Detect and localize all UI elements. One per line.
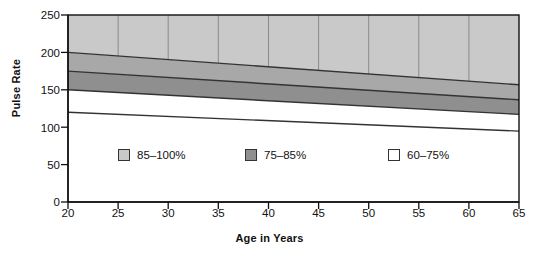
legend-item-60-75: 60–75% bbox=[388, 149, 449, 161]
legend-label-75-85: 75–85% bbox=[264, 149, 306, 161]
x-tick-25: 25 bbox=[98, 208, 138, 220]
y-axis-ticks bbox=[61, 15, 68, 202]
x-tick-30: 30 bbox=[148, 208, 188, 220]
legend-item-85-100: 85–100% bbox=[118, 149, 186, 161]
legend-label-85-100: 85–100% bbox=[137, 149, 186, 161]
x-tick-20: 20 bbox=[48, 208, 88, 220]
x-tick-40: 40 bbox=[249, 208, 289, 220]
x-tick-35: 35 bbox=[198, 208, 238, 220]
plot-area bbox=[0, 0, 539, 259]
x-tick-60: 60 bbox=[449, 208, 489, 220]
x-tick-45: 45 bbox=[299, 208, 339, 220]
pulse-rate-target-zone-chart: Pulse Rate 250 200 150 100 50 0 bbox=[0, 0, 539, 259]
x-axis-title: Age in Years bbox=[0, 232, 539, 244]
x-tick-55: 55 bbox=[399, 208, 439, 220]
legend-label-60-75: 60–75% bbox=[407, 149, 449, 161]
legend-swatch-75-85-icon bbox=[245, 149, 257, 161]
legend-item-75-85: 75–85% bbox=[245, 149, 306, 161]
legend-swatch-85-100-icon bbox=[118, 149, 130, 161]
legend-swatch-60-75-icon bbox=[388, 149, 400, 161]
x-tick-50: 50 bbox=[349, 208, 389, 220]
x-tick-65: 65 bbox=[499, 208, 539, 220]
